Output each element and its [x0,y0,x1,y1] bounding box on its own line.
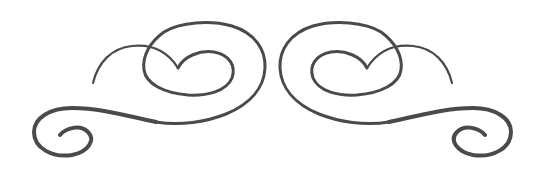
left-flourish [34,23,265,156]
left-heart-loop [144,23,265,124]
right-lower-sweep [389,108,511,156]
left-lower-sweep [34,108,156,156]
left-tail-stroke [93,46,178,83]
right-flourish [280,23,511,156]
swirl-ornament [0,0,545,176]
right-heart-loop [280,23,401,124]
right-tail-stroke [367,46,452,83]
